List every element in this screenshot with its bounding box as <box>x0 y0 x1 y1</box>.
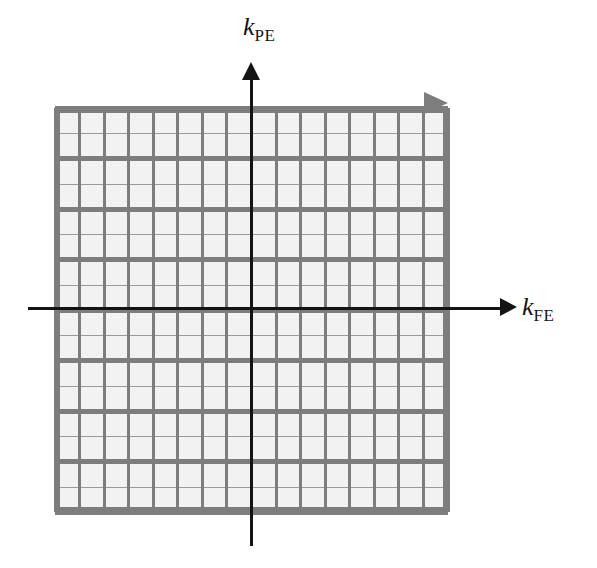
horizontal-axis-line <box>28 307 506 310</box>
horizontal-axis-arrow-icon <box>500 298 517 316</box>
grid-column-line <box>275 108 278 512</box>
grid-column-line <box>348 108 351 512</box>
grid-column-line <box>422 108 425 512</box>
vertical-axis-arrow-icon <box>242 62 260 80</box>
vertical-axis-line <box>250 78 253 546</box>
grid-column-line <box>324 108 327 512</box>
horizontal-axis-variable: k <box>522 292 534 321</box>
horizontal-axis-subscript: FE <box>534 306 555 325</box>
grid-column-line <box>54 108 57 512</box>
grid-column-line <box>447 108 450 512</box>
vertical-axis-label: kPE <box>243 14 275 44</box>
vertical-axis-variable: k <box>243 12 255 41</box>
grid-column-line <box>176 108 179 512</box>
grid-column-line <box>373 108 376 512</box>
grid-column-line <box>103 108 106 512</box>
trajectory-arrow-icon <box>424 92 448 114</box>
grid-column-line <box>78 108 81 512</box>
vertical-axis-subscript: PE <box>255 26 276 45</box>
grid-column-line <box>397 108 400 512</box>
grid-column-line <box>201 108 204 512</box>
k-space-figure: kPE kFE <box>0 0 597 568</box>
grid-column-line <box>127 108 130 512</box>
horizontal-axis-label: kFE <box>522 294 554 324</box>
grid-column-line <box>225 108 228 512</box>
grid-column-line <box>299 108 302 512</box>
grid-column-line <box>152 108 155 512</box>
